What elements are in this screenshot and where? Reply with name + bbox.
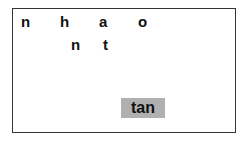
letter-tile[interactable]: a [99,14,107,29]
letter-tile[interactable]: o [138,14,147,29]
tan-button[interactable]: tan [121,98,165,118]
letter-tile[interactable]: n [71,37,80,52]
letter-tile[interactable]: t [103,37,108,52]
letter-tile[interactable]: n [21,14,30,29]
letter-tile[interactable]: h [60,14,69,29]
